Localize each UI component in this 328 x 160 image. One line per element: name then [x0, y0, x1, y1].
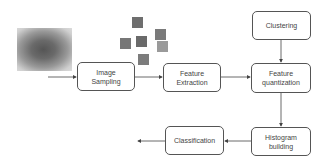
node-classification: Classification — [165, 126, 224, 155]
node-clustering: Clustering — [252, 11, 311, 40]
node-label: Extraction — [176, 78, 207, 87]
node-label: Histogram — [265, 133, 297, 142]
node-label: Feature — [262, 69, 300, 78]
node-label: Clustering — [266, 21, 298, 30]
node-label: Classification — [174, 136, 215, 145]
node-label: Sampling — [91, 77, 120, 86]
node-histogram-building: Histogrambuilding — [251, 127, 311, 156]
node-label: Image — [91, 68, 120, 77]
node-label: quantization — [262, 78, 300, 87]
node-feature-quantization: Featurequantization — [251, 63, 311, 93]
node-feature-extraction: FeatureExtraction — [163, 63, 221, 92]
node-label: building — [265, 142, 297, 151]
node-image-sampling: ImageSampling — [77, 62, 135, 91]
node-label: Feature — [176, 69, 207, 78]
